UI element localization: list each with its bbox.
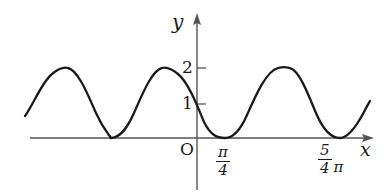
pi-symbol: π [332,160,344,176]
y-tick-label-2: 2 [182,59,193,76]
x-tick-label-five-pi-over-4: 5 4 π [318,143,343,176]
fraction-stack: 5 4 [318,143,332,176]
x-tick-label-pi-over-4: π 4 [216,145,230,178]
origin-label: O [180,141,194,158]
fraction-denominator: 4 [216,162,230,178]
y-axis-label: y [172,12,183,32]
fraction-denominator: 4 [318,160,332,176]
y-tick-label-1: 1 [182,95,193,112]
x-axis-label: x [360,140,371,159]
fraction-numerator: 5 [318,143,332,159]
fraction-numerator: π [216,145,230,161]
function-graph-figure: y x O 2 1 π 4 5 4 π [0,0,381,194]
